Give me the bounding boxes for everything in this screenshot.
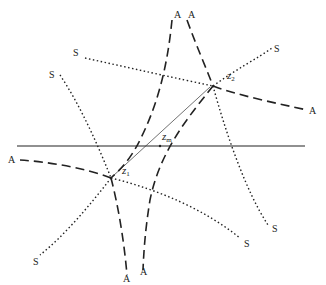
label-A-left: A (8, 154, 16, 165)
label-zm: zm (161, 130, 172, 144)
zm-point (159, 145, 161, 147)
label-S-lower-left: S (33, 256, 39, 267)
descent-path-z2-upper-left (85, 58, 213, 86)
ascent-path-z1-bottom (111, 178, 127, 275)
ascent-path-z2-bottom (143, 86, 213, 270)
descent-path-z1-lower-right (111, 178, 240, 238)
ascent-path-z2-top (187, 20, 213, 86)
label-S-lower-right-2: S (244, 238, 250, 249)
ascent-path-z1-left (20, 160, 111, 178)
label-z2: z2 (226, 69, 235, 83)
label-A-bottom-left: A (123, 273, 131, 284)
label-z1: z1 (121, 164, 130, 178)
ascent-path-z2-right (213, 86, 307, 110)
label-A-top-left: A (174, 9, 182, 20)
saddle-diagram: A A A A A A S S S S S S z2 z1 zm (0, 0, 326, 285)
label-S-upper-left-1: S (73, 47, 79, 58)
label-A-top-right: A (188, 9, 196, 20)
descent-path-z2-upper-right (213, 48, 272, 86)
descent-path-z1-lower-left (40, 178, 111, 255)
label-S-lower-right-1: S (272, 223, 278, 234)
label-S-upper-left-2: S (49, 69, 55, 80)
diagram-canvas: A A A A A A S S S S S S z2 z1 zm (0, 0, 326, 285)
descent-path-z1-upper-left (60, 75, 111, 178)
label-A-right: A (309, 105, 317, 116)
descent-path-z2-lower-right (213, 86, 268, 225)
label-S-upper-right: S (274, 43, 280, 54)
ascent-path-z1-top (111, 20, 172, 178)
label-A-bottom-right: A (140, 266, 148, 277)
